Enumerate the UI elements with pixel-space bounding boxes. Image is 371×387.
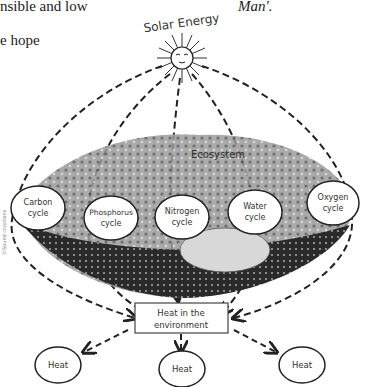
ecosystem-label: Ecosystem bbox=[191, 149, 245, 160]
heat-environment-box: Heat in the environment bbox=[135, 303, 228, 333]
cycle-label: cycle bbox=[101, 219, 122, 228]
cycle-label: cycle bbox=[245, 213, 266, 222]
cycle-carbon: Carbon cycle bbox=[11, 186, 65, 230]
heat-output-right: Heat bbox=[279, 347, 325, 383]
heat-output-center: Heat bbox=[159, 351, 205, 387]
cycle-label: Nitrogen bbox=[165, 207, 199, 216]
energy-flow-diagram: Solar Energy Ecosystem Carbon cycle Phos… bbox=[0, 0, 371, 387]
cycle-water: Water cycle bbox=[228, 190, 282, 234]
cycle-label: Phosphorus bbox=[89, 208, 133, 217]
cycle-label: Oxygen bbox=[318, 193, 349, 202]
cycle-oxygen: Oxygen cycle bbox=[307, 181, 359, 225]
sun-icon bbox=[157, 33, 207, 83]
cycle-phosphorus: Phosphorus cycle bbox=[84, 196, 138, 240]
svg-text:Heat in the: Heat in the bbox=[157, 308, 204, 318]
svg-text:Heat: Heat bbox=[292, 360, 313, 370]
cycle-label: Carbon bbox=[24, 198, 53, 207]
cycle-label: Water bbox=[243, 202, 267, 211]
svg-text:Heat: Heat bbox=[48, 360, 69, 370]
svg-text:Heat: Heat bbox=[172, 364, 193, 374]
credit-label: ©Sound creations bbox=[1, 209, 7, 255]
heat-output-left: Heat bbox=[35, 347, 81, 383]
solar-energy-label: Solar Energy bbox=[143, 11, 221, 35]
cycle-label: cycle bbox=[323, 204, 344, 213]
cycle-label: cycle bbox=[28, 209, 49, 218]
cycle-nitrogen: Nitrogen cycle bbox=[155, 195, 209, 239]
cycle-label: cycle bbox=[172, 218, 193, 227]
svg-text:environment: environment bbox=[154, 320, 209, 330]
